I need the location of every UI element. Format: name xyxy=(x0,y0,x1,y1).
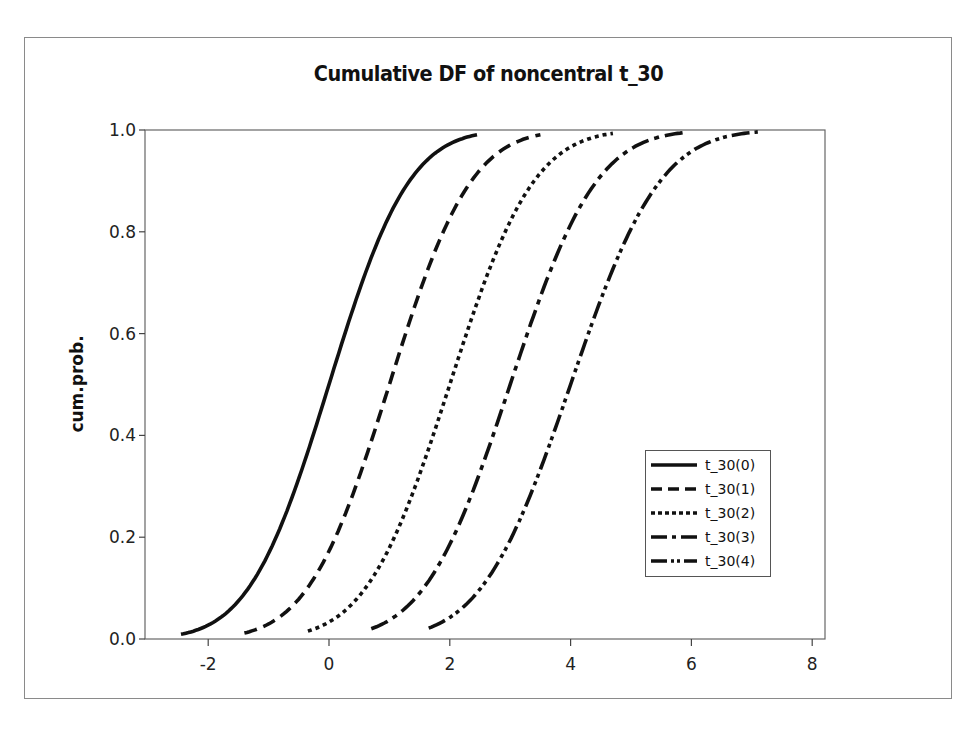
x-tick-label: 2 xyxy=(444,654,455,674)
legend-item: t_30(1) xyxy=(651,479,755,499)
plot-area: -2024680.00.20.40.60.81.0 xyxy=(0,0,977,737)
x-tick-label: 8 xyxy=(807,654,818,674)
y-tick-label: 1.0 xyxy=(109,120,136,140)
y-tick-label: 0.2 xyxy=(109,527,136,547)
axes: -2024680.00.20.40.60.81.0 xyxy=(109,120,825,674)
legend-item: t_30(4) xyxy=(651,551,755,571)
y-tick-label: 0.6 xyxy=(109,324,136,344)
x-tick-label: -2 xyxy=(200,654,217,674)
legend-item: t_30(3) xyxy=(651,527,755,547)
x-tick-label: 0 xyxy=(324,654,335,674)
curve-t_30(2) xyxy=(308,133,613,631)
legend: t_30(0) t_30(1) t_30(2) t_30(3) t_30(4) xyxy=(645,450,771,577)
x-tick-label: 4 xyxy=(565,654,576,674)
y-tick-label: 0.8 xyxy=(109,222,136,242)
legend-item: t_30(0) xyxy=(651,455,755,475)
y-tick-label: 0.0 xyxy=(109,629,136,649)
curve-t_30(0) xyxy=(181,135,477,635)
x-tick-label: 6 xyxy=(686,654,697,674)
legend-label: t_30(4) xyxy=(705,553,755,569)
curve-t_30(3) xyxy=(371,132,685,628)
legend-item: t_30(2) xyxy=(651,503,755,523)
legend-label: t_30(1) xyxy=(705,481,755,497)
legend-label: t_30(2) xyxy=(705,505,755,521)
legend-label: t_30(0) xyxy=(705,457,755,473)
legend-label: t_30(3) xyxy=(705,529,755,545)
y-tick-label: 0.4 xyxy=(109,425,136,445)
